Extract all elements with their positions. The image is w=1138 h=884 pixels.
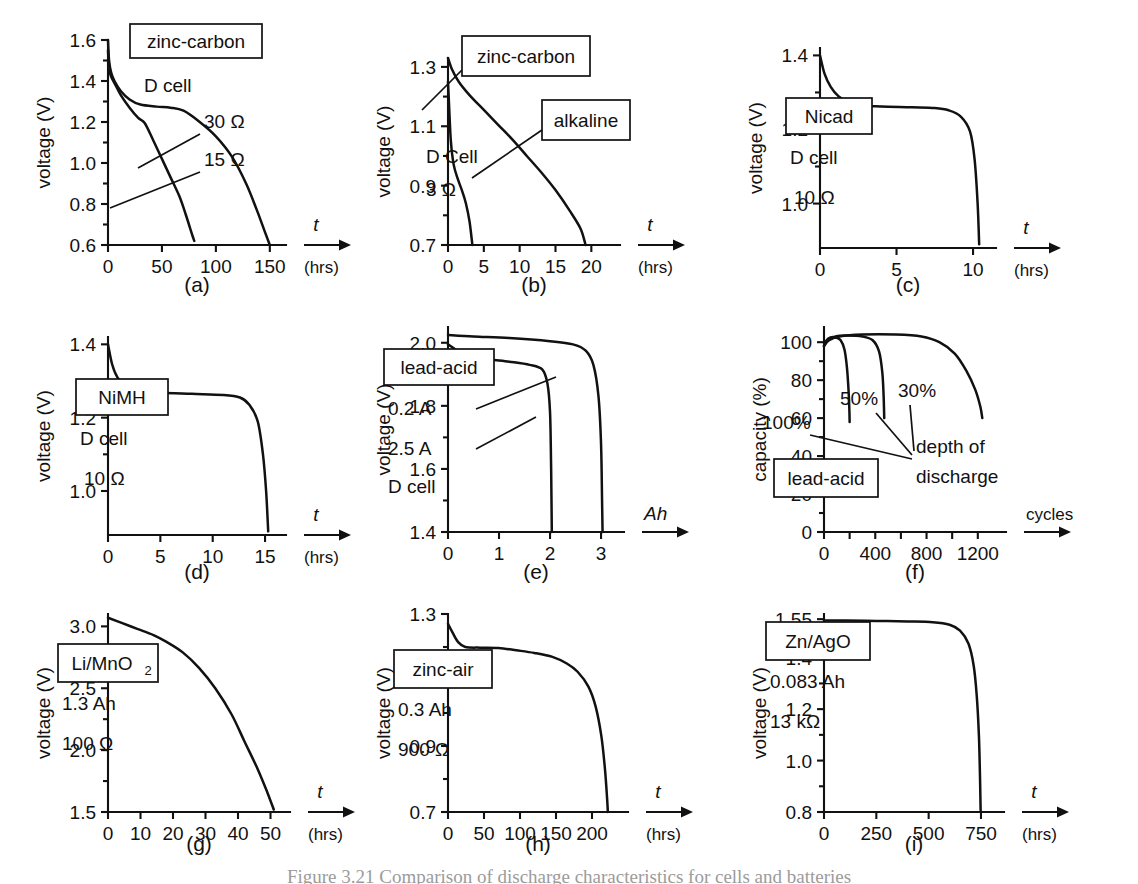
x-tick-label: 0 xyxy=(443,823,454,844)
x-tick-label: 0 xyxy=(819,823,830,844)
x-axis-arrowhead xyxy=(1057,807,1069,818)
x-tick-label: 1 xyxy=(494,543,505,564)
x-tick-label: 750 xyxy=(965,823,997,844)
y-axis-label: voltage (V) xyxy=(33,97,54,189)
panel-letter: (f) xyxy=(905,560,925,583)
x-tick-label: 0 xyxy=(443,256,454,277)
y-tick-label: 1.3 xyxy=(410,604,436,625)
annotation-text: 1.3 Ah xyxy=(62,693,116,714)
y-tick-label: 1.2 xyxy=(70,112,96,133)
y-tick-label: 0.8 xyxy=(786,802,812,823)
title-box-label: Nicad xyxy=(805,106,854,127)
x-axis-label: Ah xyxy=(643,503,667,524)
y-tick-label: 1.4 xyxy=(410,522,437,543)
annotation-text: 3 Ω xyxy=(426,179,456,200)
annotation-text: 0.2 A xyxy=(388,398,432,419)
discharge-curve-f-0 xyxy=(824,337,850,422)
x-tick-label: 20 xyxy=(581,256,602,277)
chart-panel-c: 1.01.21.40510voltage (V)t(hrs)NicadD cel… xyxy=(728,18,1088,298)
x-axis-label: t xyxy=(313,504,319,525)
chart-panel-e: 1.41.61.82.00123voltage (V)Ahlead-acid0.… xyxy=(360,305,710,585)
annotation-text: 10 Ω xyxy=(794,187,835,208)
annotation-text: 13 kΩ xyxy=(770,711,820,732)
title-box-label: zinc-carbon xyxy=(147,31,245,52)
x-tick-label: 3 xyxy=(596,543,607,564)
leader-line xyxy=(810,435,912,459)
annotation-text: 0.3 Ah xyxy=(398,699,452,720)
y-tick-label: 0.8 xyxy=(70,194,96,215)
leader-line xyxy=(910,405,914,451)
x-axis-unit: (hrs) xyxy=(1014,261,1049,280)
figure-discharge-characteristics: 0.60.81.01.21.41.6050100150voltage (V)t(… xyxy=(0,0,1138,884)
y-tick-label: 0 xyxy=(801,522,812,543)
x-axis-unit: (hrs) xyxy=(304,548,339,567)
x-tick-label: 150 xyxy=(254,256,286,277)
x-tick-label: 0 xyxy=(815,259,826,280)
x-tick-label: 5 xyxy=(479,256,490,277)
y-tick-label: 1.3 xyxy=(410,57,436,78)
x-axis-arrowhead xyxy=(1059,527,1071,538)
annotation-text: 2.5 A xyxy=(388,438,432,459)
chart-panel-i: 0.81.01.21.41.550250500750voltage (V)t(h… xyxy=(728,592,1088,857)
title-box-label: lead-acid xyxy=(787,468,864,489)
x-tick-label: 0 xyxy=(103,823,114,844)
leader-line xyxy=(472,130,542,178)
title-box-label: alkaline xyxy=(554,110,618,131)
x-axis-arrowhead xyxy=(673,240,685,251)
chart-panel-h: 0.70.91.11.3050100150200voltage (V)t(hrs… xyxy=(360,592,710,857)
y-tick-label: 100 xyxy=(780,332,812,353)
y-tick-label: 1.0 xyxy=(70,153,96,174)
annotation-text: D Cell xyxy=(426,146,478,167)
panel-letter: (c) xyxy=(896,273,921,296)
x-axis-arrowhead xyxy=(1049,243,1061,254)
axes-c xyxy=(820,48,996,248)
y-tick-label: 1.1 xyxy=(410,116,436,137)
x-tick-label: 40 xyxy=(227,823,248,844)
discharge-curve-d-0 xyxy=(108,344,268,531)
chart-panel-d: 1.01.21.4051015voltage (V)t(hrs)NiMHD ce… xyxy=(18,305,368,585)
panel-letter: (a) xyxy=(184,273,210,296)
y-axis-label: voltage (V) xyxy=(373,667,394,759)
axes-f xyxy=(824,327,1006,532)
x-tick-label: 50 xyxy=(473,823,494,844)
annotation-text: 50% xyxy=(840,388,878,409)
y-tick-label: 1.0 xyxy=(786,751,812,772)
x-tick-label: 0 xyxy=(819,543,830,564)
annotation-text: 100 Ω xyxy=(62,733,113,754)
chart-panel-f: 02040608010004008001200capacity (%)cycle… xyxy=(728,305,1088,585)
y-tick-label: 0.7 xyxy=(410,235,436,256)
x-tick-label: 50 xyxy=(260,823,281,844)
annotation-text: D cell xyxy=(388,476,436,497)
x-axis-arrowhead xyxy=(677,527,689,538)
y-axis-label: voltage (V) xyxy=(33,390,54,482)
annotation-text: D cell xyxy=(790,147,838,168)
x-axis-label: t xyxy=(647,214,653,235)
axes-h xyxy=(448,614,628,812)
leader-line xyxy=(876,413,912,455)
y-axis-label: voltage (V) xyxy=(745,102,766,194)
y-axis-label: voltage (V) xyxy=(33,667,54,759)
x-tick-label: 15 xyxy=(545,256,566,277)
chart-panel-g: 1.52.02.53.001020304050voltage (V)t(hrs)… xyxy=(18,592,368,857)
title-box-label: Li/MnO xyxy=(71,653,132,674)
x-tick-label: 0 xyxy=(103,256,114,277)
x-tick-label: 1200 xyxy=(957,543,999,564)
panel-letter: (g) xyxy=(186,832,212,855)
y-tick-label: 1.4 xyxy=(782,45,809,66)
x-axis-label: t xyxy=(1023,217,1029,238)
x-axis-label: cycles xyxy=(1026,505,1073,524)
discharge-curve-a-0 xyxy=(108,40,270,245)
annotation-text: 30% xyxy=(898,380,936,401)
y-tick-label: 80 xyxy=(791,370,812,391)
title-box-label: Zn/AgO xyxy=(785,631,850,652)
title-box-subscript: 2 xyxy=(144,663,151,678)
x-tick-label: 10 xyxy=(962,259,983,280)
chart-panel-b: 0.70.91.11.305101520voltage (V)t(hrs)zin… xyxy=(360,18,710,298)
x-tick-label: 200 xyxy=(576,823,608,844)
panel-letter: (i) xyxy=(905,832,924,855)
series-label: 30 Ω xyxy=(204,111,245,132)
title-box-label: lead-acid xyxy=(400,357,477,378)
y-tick-label: 1.4 xyxy=(70,71,97,92)
y-axis-label: voltage (V) xyxy=(373,106,394,198)
title-box-label: zinc-air xyxy=(412,659,474,680)
